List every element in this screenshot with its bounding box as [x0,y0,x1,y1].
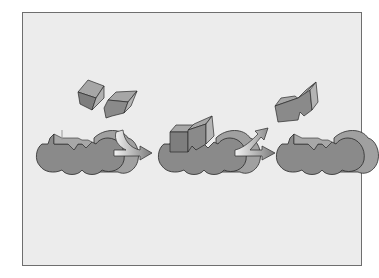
enzyme-reaction-diagram [0,0,379,278]
stage-3-group [275,82,379,175]
stage-2-group [158,116,275,175]
substrate-wedge [104,91,137,118]
stage-1-group [36,80,152,175]
substrate-cube [78,80,104,110]
enzyme-released [276,131,378,175]
product [275,82,318,122]
